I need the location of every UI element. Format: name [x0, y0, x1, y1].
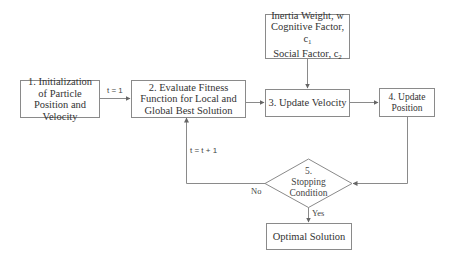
velocity-box: 3. Update Velocity	[265, 89, 350, 117]
yes-label: Yes	[312, 208, 324, 218]
optimal-label: Optimal Solution	[273, 231, 346, 243]
inertia-weight-text: Inertia Weight, w	[271, 10, 344, 22]
no-label: No	[251, 186, 261, 196]
t-init-label: t = 1	[107, 86, 123, 95]
stopping-condition-text: 5. Stopping Condition	[278, 166, 339, 199]
velocity-label: 3. Update Velocity	[268, 97, 346, 109]
init-box: 1. Initialization of Particle Position a…	[20, 80, 100, 118]
social-factor-text: Social Factor, c2	[273, 48, 342, 64]
edge-position-to-stopping	[353, 117, 408, 184]
init-label: 1. Initialization of Particle Position a…	[21, 76, 99, 122]
evaluate-label: 2. Evaluate Fitness Function for Local a…	[132, 82, 245, 117]
optimal-solution-box: Optimal Solution	[266, 223, 352, 250]
position-label: 4. Update Position	[380, 92, 434, 114]
evaluate-box: 2. Evaluate Fitness Function for Local a…	[131, 80, 246, 118]
params-box: Inertia Weight, w Cognitive Factor, c1 S…	[265, 14, 350, 59]
t-increment-label: t = t + 1	[190, 146, 217, 155]
position-box: 4. Update Position	[379, 88, 435, 117]
cognitive-factor-text: Cognitive Factor, c1	[266, 21, 349, 48]
connectors	[0, 0, 452, 265]
